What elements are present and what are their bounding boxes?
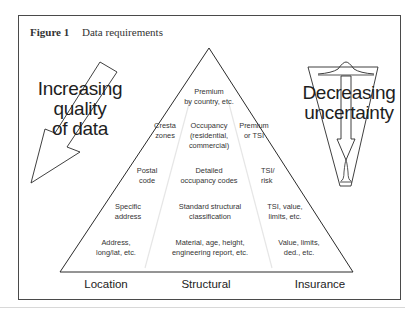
label-line: uncertainty xyxy=(302,103,395,123)
structural-cell-classification: Standard structural classification xyxy=(179,202,241,222)
cell-line: zones xyxy=(154,131,176,141)
cell-line: classification xyxy=(179,212,241,222)
cell-line: by country, etc. xyxy=(184,97,234,107)
cell-line: risk xyxy=(261,176,275,186)
cell-line: ded., etc. xyxy=(278,248,319,258)
apex-cell: Premium by country, etc. xyxy=(184,87,234,107)
cell-line: Standard structural xyxy=(179,202,241,212)
cell-line: Material, age, height, xyxy=(172,238,248,248)
location-cell-longlat: Address, long/lat, etc. xyxy=(96,238,136,258)
column-label-structural: Structural xyxy=(181,278,230,290)
cell-line: Specific xyxy=(115,202,141,212)
location-cell-postal: Postal code xyxy=(137,166,158,186)
cell-line: long/lat, etc. xyxy=(96,248,136,258)
cell-line: Cresta xyxy=(154,121,176,131)
cell-line: Detailed xyxy=(180,166,237,176)
structural-cell-material: Material, age, height, engineering repor… xyxy=(172,238,248,258)
structural-cell-detailed: Detailed occupancy codes xyxy=(180,166,237,186)
diagram-graphics xyxy=(0,0,417,318)
cell-line: engineering report, etc. xyxy=(172,248,248,258)
label-line: of data xyxy=(38,119,123,139)
cell-line: Premium xyxy=(239,121,269,131)
insurance-cell-value-limits: Value, limits, ded., etc. xyxy=(278,238,319,258)
bell-curve-wide-icon xyxy=(318,62,374,74)
cell-line: Value, limits, xyxy=(278,238,319,248)
label-line: Increasing xyxy=(38,79,123,99)
cell-line: occupancy codes xyxy=(180,176,237,186)
cell-line: (residential, xyxy=(189,131,229,141)
column-label-location: Location xyxy=(84,278,127,290)
cell-line: TSI, value, xyxy=(267,202,302,212)
location-cell-address: Specific address xyxy=(115,202,141,222)
cell-line: address xyxy=(115,212,141,222)
label-line: quality xyxy=(38,99,123,119)
bell-curve-narrow-icon xyxy=(341,160,351,181)
increasing-quality-label: Increasing quality of data xyxy=(38,79,123,139)
decreasing-uncertainty-label: Decreasing uncertainty xyxy=(302,83,395,123)
cell-line: commercial) xyxy=(189,141,229,151)
insurance-cell-tsi-risk: TSI/ risk xyxy=(261,166,275,186)
column-label-insurance: Insurance xyxy=(295,278,346,290)
cell-line: Occupancy xyxy=(189,121,229,131)
insurance-cell-tsi-value: TSI, value, limits, etc. xyxy=(267,202,302,222)
cell-line: Postal xyxy=(137,166,158,176)
cell-line: Premium xyxy=(184,87,234,97)
label-line: Decreasing xyxy=(302,83,395,103)
cell-line: TSI/ xyxy=(261,166,275,176)
insurance-cell-premium: Premium or TSI xyxy=(239,121,269,141)
cell-line: limits, etc. xyxy=(267,212,302,222)
cell-line: or TSI xyxy=(239,131,269,141)
structural-cell-occupancy: Occupancy (residential, commercial) xyxy=(189,121,229,151)
cell-line: Address, xyxy=(96,238,136,248)
location-cell-cresta: Cresta zones xyxy=(154,121,176,141)
cell-line: code xyxy=(137,176,158,186)
